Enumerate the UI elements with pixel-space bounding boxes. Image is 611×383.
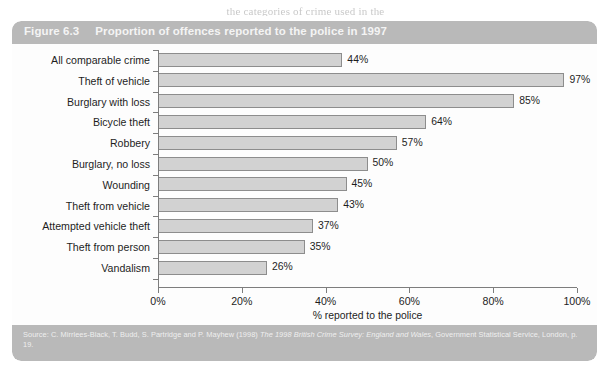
bar-value-label: 37% xyxy=(313,219,339,233)
x-axis-tick-label: 80% xyxy=(483,295,504,307)
figure-source-note: Source: C. Mirrlees-Black, T. Budd, S. P… xyxy=(23,330,583,349)
y-axis-tick xyxy=(153,196,158,197)
source-prefix: Source: C. Mirrlees-Black, T. Budd, S. P… xyxy=(23,330,260,339)
bar-value-label: 50% xyxy=(368,156,394,170)
x-axis-title: % reported to the police xyxy=(158,310,577,321)
chart-plot-area: All comparable crimeTheft of vehicleBurg… xyxy=(12,44,597,325)
bar-row: 57% xyxy=(158,133,578,154)
category-label: Vandalism xyxy=(12,258,155,279)
x-axis-line xyxy=(158,287,577,288)
category-label: Theft of vehicle xyxy=(12,71,155,92)
y-axis-tick xyxy=(153,216,158,217)
y-axis-tick xyxy=(153,112,158,113)
bar-row: 44% xyxy=(158,50,578,71)
bar-row: 45% xyxy=(158,175,578,196)
figure-source-bar: Source: C. Mirrlees-Black, T. Budd, S. P… xyxy=(12,325,597,361)
source-publication-title: The 1998 British Crime Survey: England a… xyxy=(260,330,431,339)
bar-row: 85% xyxy=(158,92,578,113)
category-label: Bicycle theft xyxy=(12,112,155,133)
bar xyxy=(158,198,338,212)
y-axis-tick xyxy=(153,175,158,176)
x-axis-tick xyxy=(242,288,243,293)
bar xyxy=(158,261,267,275)
bar-row: 26% xyxy=(158,258,578,279)
page-text-sliver: the categories of crime used in the xyxy=(0,0,611,16)
figure-panel: Figure 6.3Proportion of offences reporte… xyxy=(12,21,597,361)
bar xyxy=(158,73,564,87)
figure-caption: Figure 6.3Proportion of offences reporte… xyxy=(24,25,387,37)
bar xyxy=(158,94,514,108)
category-label: Burglary with loss xyxy=(12,92,155,113)
x-axis-tick xyxy=(577,288,578,293)
bar xyxy=(158,115,426,129)
figure-header-bar: Figure 6.3Proportion of offences reporte… xyxy=(12,21,597,44)
bar-value-label: 43% xyxy=(338,198,364,212)
x-axis-tick-label: 100% xyxy=(563,295,590,307)
bar xyxy=(158,177,347,191)
category-axis-labels: All comparable crimeTheft of vehicleBurg… xyxy=(12,50,155,279)
y-axis-tick xyxy=(153,154,158,155)
category-label: Attempted vehicle theft xyxy=(12,216,155,237)
x-axis-tick-label: 60% xyxy=(399,295,420,307)
category-label: Theft from person xyxy=(12,237,155,258)
bar-row: 35% xyxy=(158,237,578,258)
bar-value-label: 26% xyxy=(267,260,293,274)
bar-value-label: 44% xyxy=(342,53,368,67)
y-axis-tick xyxy=(153,258,158,259)
y-axis-tick xyxy=(153,50,158,51)
y-axis-tick xyxy=(153,71,158,72)
bar-row: 37% xyxy=(158,216,578,237)
y-axis-tick xyxy=(153,92,158,93)
bar-row: 97% xyxy=(158,71,578,92)
bar-row: 43% xyxy=(158,196,578,217)
bar xyxy=(158,53,342,67)
x-axis-tick xyxy=(326,288,327,293)
x-axis-tick-label: 40% xyxy=(315,295,336,307)
bar-row: 50% xyxy=(158,154,578,175)
category-label: Robbery xyxy=(12,133,155,154)
bar xyxy=(158,157,368,171)
bars-container: 44%97%85%64%57%50%45%43%37%35%26% xyxy=(158,50,578,286)
bar xyxy=(158,219,313,233)
bar xyxy=(158,136,397,150)
category-label: Theft from vehicle xyxy=(12,196,155,217)
x-axis-tick xyxy=(493,288,494,293)
category-label: Wounding xyxy=(12,175,155,196)
bar xyxy=(158,240,305,254)
category-label: Burglary, no loss xyxy=(12,154,155,175)
y-axis-tick xyxy=(153,237,158,238)
figure-number: Figure 6.3 xyxy=(24,25,79,37)
x-axis-tick xyxy=(409,288,410,293)
bar-value-label: 57% xyxy=(397,136,423,150)
bar-value-label: 64% xyxy=(426,115,452,129)
category-label: All comparable crime xyxy=(12,50,155,71)
bar-value-label: 45% xyxy=(347,177,373,191)
x-axis-tick-label: 20% xyxy=(231,295,252,307)
bar-value-label: 85% xyxy=(514,94,540,108)
bar-value-label: 35% xyxy=(305,240,331,254)
x-axis-tick xyxy=(158,288,159,293)
y-axis-tick xyxy=(153,133,158,134)
y-axis-line xyxy=(158,50,159,287)
x-axis-tick-label: 0% xyxy=(150,295,165,307)
figure-title: Proportion of offences reported to the p… xyxy=(95,25,387,37)
y-axis-tick xyxy=(153,279,158,280)
bar-value-label: 97% xyxy=(564,73,590,87)
bar-row: 64% xyxy=(158,112,578,133)
